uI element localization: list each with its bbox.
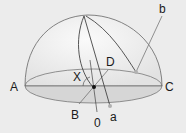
- label-a: a: [110, 110, 117, 124]
- label-X: X: [73, 70, 81, 84]
- label-A: A: [10, 80, 18, 94]
- center-point: [92, 85, 96, 89]
- hemisphere-diagram: A C B D X 0 a b: [0, 0, 186, 133]
- label-B: B: [71, 108, 79, 122]
- label-O: 0: [94, 116, 101, 130]
- point-a: [108, 104, 112, 108]
- label-b: b: [159, 2, 166, 16]
- label-D: D: [106, 55, 115, 69]
- point-b: [134, 70, 138, 74]
- label-C: C: [165, 80, 174, 94]
